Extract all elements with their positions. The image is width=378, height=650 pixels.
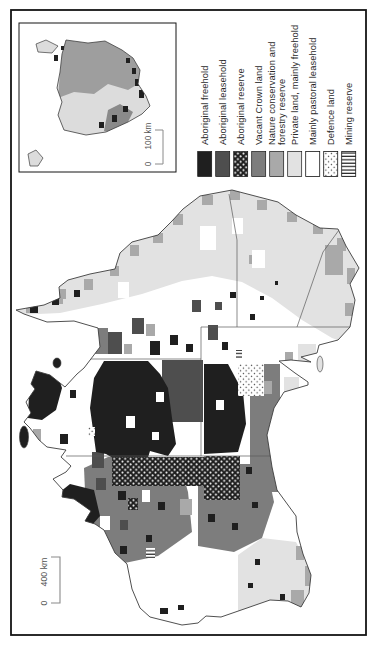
legend-item-defence-land: Defence land <box>324 89 338 177</box>
legend-item-mining-reserve: Mining reserve <box>342 83 356 177</box>
inset-scale-zero: 0 <box>144 161 153 166</box>
legend-label-nature-conservation-line2: forestry reserve <box>277 79 287 145</box>
legend-label-pastoral-leasehold: Mainly pastoral leasehold <box>308 38 318 145</box>
legend-label-private-land: Private land, mainly freehold <box>290 25 300 145</box>
legend-swatch-aboriginal-freehold <box>198 152 212 177</box>
legend-label-aboriginal-reserve: Aboriginal reserve <box>236 68 246 145</box>
legend-item-vacant-crown-land: Vacant Crown land <box>252 65 266 176</box>
legend-swatch-mining-reserve <box>342 152 356 177</box>
small-island <box>61 46 64 50</box>
main-scale-distance: 400 km <box>39 558 49 587</box>
cape-barren-island <box>54 55 58 61</box>
legend-swatch-nature-conservation <box>270 152 284 177</box>
figure-canvas: 0 400 km <box>0 0 378 650</box>
figure: 0 400 km <box>0 0 378 650</box>
legend-item-aboriginal-leasehold: Aboriginal leasehold <box>216 59 230 176</box>
legend-item-aboriginal-freehold: Aboriginal freehold <box>198 66 212 177</box>
legend-label-aboriginal-freehold: Aboriginal freehold <box>200 66 210 145</box>
legend-label-aboriginal-leasehold: Aboriginal leasehold <box>218 59 228 145</box>
legend-item-pastoral-leasehold: Mainly pastoral leasehold <box>306 38 320 177</box>
legend-swatch-vacant-crown-land <box>252 152 266 177</box>
groote-island <box>53 358 61 368</box>
main-scale-zero: 0 <box>39 600 49 605</box>
legend-label-defence-land: Defence land <box>326 89 336 145</box>
kangaroo-island <box>317 356 323 372</box>
rotated-figure: 0 400 km <box>11 10 366 635</box>
tasmania-inset: 0 100 km <box>19 23 176 172</box>
legend-item-aboriginal-reserve: Aboriginal reserve <box>234 68 248 176</box>
legend-swatch-aboriginal-leasehold <box>216 152 230 177</box>
legend-swatch-private-land <box>288 152 302 177</box>
inset-scale-distance: 100 km <box>144 122 153 149</box>
legend-swatch-aboriginal-reserve <box>234 152 248 177</box>
legend-label-nature-conservation-line1: Nature conservation and <box>267 41 277 145</box>
legend-swatch-defence-land <box>324 152 338 177</box>
legend-label-vacant-crown-land: Vacant Crown land <box>254 65 264 145</box>
tiwi-islands <box>20 426 29 448</box>
legend-label-mining-reserve: Mining reserve <box>344 83 354 145</box>
legend-item-private-land: Private land, mainly freehold <box>288 25 302 177</box>
legend-swatch-pastoral-leasehold <box>306 152 320 177</box>
